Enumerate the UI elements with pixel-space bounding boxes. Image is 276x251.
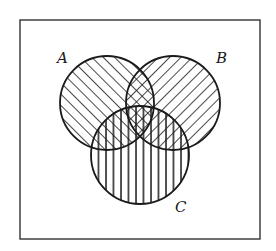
set-c-label: C bbox=[175, 200, 186, 215]
set-a-label: A bbox=[57, 51, 68, 66]
venn-diagram bbox=[0, 0, 276, 251]
set-b-label: B bbox=[216, 51, 227, 66]
